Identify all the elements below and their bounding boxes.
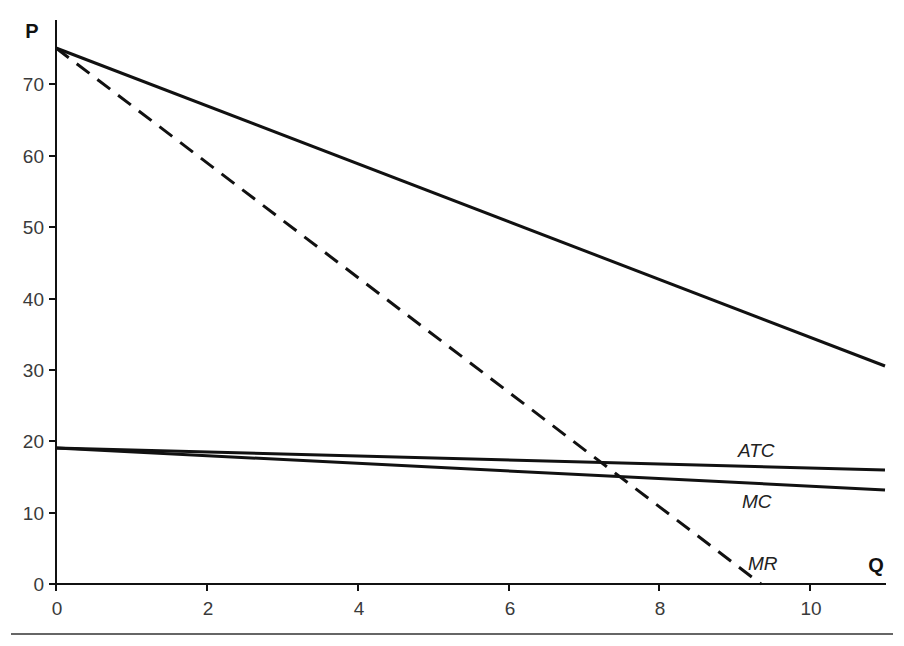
x-tick-label: 8 xyxy=(655,598,666,619)
x-axis-title: Q xyxy=(868,554,884,576)
y-tick-label: 20 xyxy=(23,431,44,452)
y-tick-label: 10 xyxy=(23,503,44,524)
y-tick-label: 0 xyxy=(33,574,44,595)
demand-curve xyxy=(56,48,885,366)
y-tick-label: 60 xyxy=(23,146,44,167)
mr-label: MR xyxy=(748,553,778,574)
x-tick-label: 2 xyxy=(203,598,214,619)
x-tick-label: 10 xyxy=(800,598,821,619)
x-tick-label: 6 xyxy=(505,598,516,619)
y-tick-label: 50 xyxy=(23,217,44,238)
y-axis-title: P xyxy=(25,20,38,42)
atc-label: ATC xyxy=(737,440,775,461)
x-tick-label: 0 xyxy=(52,598,63,619)
chart: 0 10 20 30 40 50 60 70 0 2 4 6 8 10 P Q … xyxy=(0,0,904,646)
x-ticks xyxy=(56,584,810,591)
y-ticks xyxy=(49,84,56,584)
mr-curve xyxy=(56,48,761,584)
y-tick-label: 70 xyxy=(23,74,44,95)
y-tick-label: 30 xyxy=(23,360,44,381)
y-tick-label: 40 xyxy=(23,289,44,310)
x-tick-label: 4 xyxy=(354,598,365,619)
mc-label: MC xyxy=(742,491,772,512)
